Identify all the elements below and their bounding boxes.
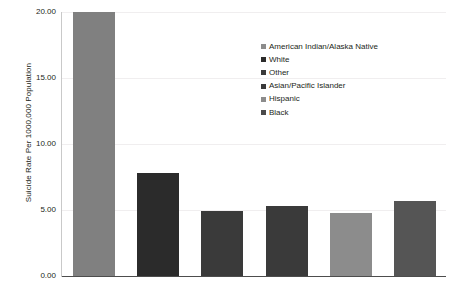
bar — [394, 201, 436, 276]
legend-swatch-icon — [261, 70, 266, 75]
bar — [266, 206, 308, 276]
y-axis-tick-label: 0.00 — [20, 272, 56, 280]
legend-label: Asian/Pacific Islander — [269, 82, 345, 90]
y-axis-tick-label: 5.00 — [20, 206, 56, 214]
legend-label: Black — [269, 109, 289, 117]
legend-item[interactable]: Asian/Pacific Islander — [261, 80, 441, 93]
legend-item[interactable]: Other — [261, 66, 441, 79]
bar — [137, 173, 179, 276]
legend-label: Hispanic — [269, 95, 300, 103]
legend-swatch-icon — [261, 84, 266, 89]
bar — [330, 213, 372, 276]
legend-swatch-icon — [261, 44, 266, 49]
y-axis-tick-labels: 0.005.0010.0015.0020.00 — [20, 0, 56, 290]
legend-swatch-icon — [261, 97, 266, 102]
bar — [201, 211, 243, 276]
legend-item[interactable]: American Indian/Alaska Native — [261, 40, 441, 53]
x-axis-baseline — [62, 276, 446, 277]
legend-item[interactable]: Hispanic — [261, 93, 441, 106]
y-axis-tick-label: 10.00 — [20, 140, 56, 148]
legend-item[interactable]: Black — [261, 106, 441, 119]
bar-chart: Suicide Rate Per 1000,000 Population 0.0… — [0, 0, 453, 290]
y-axis-tick-label: 15.00 — [20, 74, 56, 82]
legend-label: Other — [269, 69, 289, 77]
legend-label: American Indian/Alaska Native — [269, 43, 378, 51]
legend-swatch-icon — [261, 57, 266, 62]
chart-legend: American Indian/Alaska NativeWhiteOtherA… — [261, 40, 441, 119]
legend-item[interactable]: White — [261, 53, 441, 66]
bar — [73, 12, 115, 276]
legend-swatch-icon — [261, 110, 266, 115]
y-axis-tick-label: 20.00 — [20, 8, 56, 16]
legend-label: White — [269, 56, 289, 64]
